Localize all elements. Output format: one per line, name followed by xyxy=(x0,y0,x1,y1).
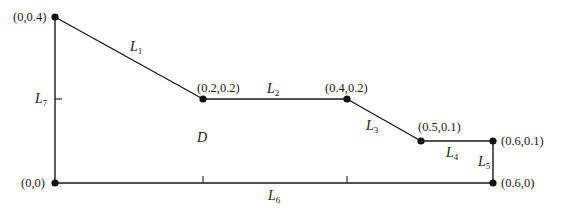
coord-label-0-04: (0,0.4) xyxy=(13,10,46,24)
region-label-d: D xyxy=(196,130,207,145)
edge-l3 xyxy=(347,99,421,141)
coord-label-02-02: (0.2,0.2) xyxy=(197,81,240,95)
edge-label-l5: L5 xyxy=(477,154,491,171)
vertex-0-0 xyxy=(51,179,58,186)
edge-label-l3: L3 xyxy=(365,118,379,135)
vertex-04-02 xyxy=(343,95,350,102)
edge-label-l6: L6 xyxy=(267,188,281,205)
edge-label-l4: L4 xyxy=(445,145,459,162)
vertex-02-02 xyxy=(199,95,206,102)
edge-label-l1: L1 xyxy=(129,39,142,56)
edge-label-l7: L7 xyxy=(34,91,48,108)
vertex-06-01 xyxy=(489,137,496,144)
polygon-domain-diagram: (0,0.4) (0.2,0.2) (0.4,0.2) (0.5,0.1) (0… xyxy=(0,0,563,212)
coord-label-05-01: (0.5,0.1) xyxy=(418,120,461,134)
vertex-05-01 xyxy=(417,137,424,144)
edge-l1 xyxy=(55,17,203,99)
edge-label-l2: L2 xyxy=(266,81,279,98)
coord-label-06-01: (0.6,0.1) xyxy=(501,134,544,148)
coord-label-0-0: (0,0) xyxy=(21,176,45,190)
coord-label-04-02: (0.4,0.2) xyxy=(325,81,368,95)
vertex-06-0 xyxy=(489,179,496,186)
vertex-0-04 xyxy=(51,13,58,20)
coord-label-06-0: (0.6,0) xyxy=(501,176,534,190)
